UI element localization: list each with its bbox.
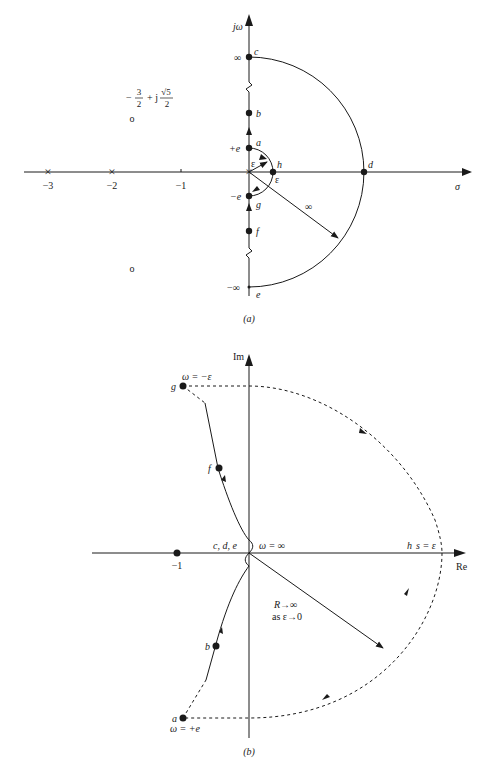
point-b [213, 643, 220, 650]
label-g: g [171, 381, 176, 392]
re-arrow-icon [454, 549, 466, 557]
label-g: g [256, 199, 261, 210]
zero-label-den: 2 [137, 99, 142, 109]
omega-infinity-label: ω = ∞ [259, 540, 285, 551]
r-infinity-label: R→∞ [273, 599, 297, 610]
pole-marker: × [108, 164, 115, 179]
point-d [361, 169, 367, 175]
nyquist-plot: Im Re −1 f b g ω = −ε a ω = +e R→∞ [92, 351, 468, 758]
radius-arrow [249, 172, 338, 238]
jw-axis-label: jω [231, 21, 243, 32]
omega-minus-eps-label: ω = −ε [182, 371, 212, 382]
point-e [248, 286, 251, 289]
label-f: f [256, 226, 260, 237]
label-b: b [256, 108, 261, 119]
sigma-arrow-icon [462, 168, 472, 176]
neg-infinity-label: −∞ [227, 282, 240, 293]
x-tick-label: −1 [176, 180, 187, 191]
direction-arrow-icon [246, 203, 252, 211]
cde-label: c, d, e [213, 540, 237, 551]
label-e: e [256, 289, 261, 300]
label-c: c [254, 46, 259, 57]
critical-point [174, 550, 181, 557]
direction-arrow-icon [246, 127, 252, 135]
caption-b: (b) [243, 746, 255, 758]
s-eps-label: s = ε [416, 540, 436, 551]
nyquist-figure: × × × o o − 3 2 + j √5 2 −3 −2 −1 jω σ ∞… [0, 0, 485, 764]
plus-e-label: +e [229, 143, 241, 154]
zero-label-j: + j [147, 92, 158, 103]
re-axis-label: Re [456, 561, 468, 572]
point-b [246, 110, 252, 116]
point-g [180, 383, 187, 390]
s-plane-diagram: × × × o o − 3 2 + j √5 2 −3 −2 −1 jω σ ∞… [24, 14, 472, 325]
as-eps-label: as ε→0 [272, 611, 302, 622]
pole-marker: × [44, 164, 51, 179]
caption-a: (a) [243, 313, 255, 325]
im-axis-label: Im [233, 351, 244, 362]
label-d: d [368, 159, 374, 170]
point-a [180, 715, 187, 722]
zero-label-num: 3 [137, 87, 142, 97]
label-f: f [208, 463, 212, 474]
point-a [246, 145, 252, 151]
omega-plus-e-label: ω = +e [170, 723, 201, 734]
epsilon-label: ε [275, 174, 279, 185]
point-f [216, 465, 223, 472]
point-f [246, 228, 252, 234]
axis-break-icon [246, 248, 252, 258]
zero-label-den2: 2 [165, 99, 170, 109]
zero-label-minus: − [126, 92, 132, 103]
label-a: a [256, 137, 261, 148]
im-arrow-icon [245, 354, 253, 366]
axis-break-icon [246, 82, 252, 92]
nyquist-curve-positive [206, 553, 249, 680]
point-g [246, 193, 252, 199]
label-h: h [407, 540, 412, 551]
infinity-label: ∞ [234, 52, 241, 63]
sigma-axis-label: σ [455, 181, 461, 192]
zero-label-sqrt: √5 [161, 87, 171, 97]
minus-e-label: −e [230, 191, 242, 202]
minus-one-label: −1 [172, 560, 183, 571]
x-tick-label: −3 [43, 180, 54, 191]
dashed-contour-lower [183, 553, 442, 718]
nyquist-curve-negative [205, 403, 253, 553]
zero-marker: o [130, 263, 135, 274]
point-c [246, 54, 252, 60]
jw-arrow-icon [245, 14, 253, 26]
x-tick-label: −2 [107, 180, 118, 191]
zero-marker: o [130, 113, 135, 124]
label-b: b [205, 641, 210, 652]
epsilon-label: ε [251, 158, 255, 169]
radius-infinity-label: ∞ [305, 201, 312, 212]
radius-arrow [249, 553, 383, 648]
label-h: h [277, 159, 282, 170]
